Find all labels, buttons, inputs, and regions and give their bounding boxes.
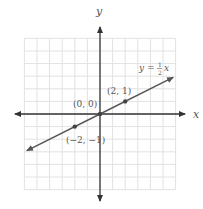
- equation-variable: x: [164, 63, 169, 73]
- equation-denominator: 2: [158, 69, 162, 76]
- point-label-neg2-neg1: (−2, −1): [66, 135, 105, 145]
- data-point: [123, 99, 127, 103]
- data-point: [98, 112, 102, 116]
- point-label-2-1: (2, 1): [107, 86, 131, 96]
- data-point: [73, 124, 77, 128]
- point-label-origin: (0, 0): [73, 99, 97, 109]
- coordinate-plane: y x y = 1 2 x (0, 0) (2, 1) (−2, −1): [0, 0, 203, 209]
- y-axis-label: y: [95, 5, 103, 18]
- x-axis-label: x: [193, 108, 200, 121]
- equation-numerator: 1: [158, 61, 162, 68]
- equation-lhs: y =: [138, 63, 155, 73]
- line-y-half-x-neg: [27, 114, 100, 151]
